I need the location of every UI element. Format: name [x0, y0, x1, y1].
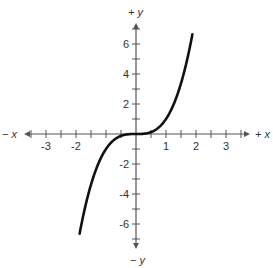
x-tick-label: -3 [41, 140, 51, 152]
y-axis-up-arrow-icon [133, 23, 139, 29]
y-tick-label: 2 [123, 98, 129, 110]
y-axis-down-arrow-icon [133, 243, 139, 249]
x-tick-label: 2 [193, 140, 199, 152]
y-axis-negative-label: − y [130, 254, 146, 266]
y-tick-label: -4 [119, 188, 129, 200]
y-tick-label: -6 [119, 218, 129, 230]
x-axis-right-arrow-icon [244, 131, 250, 137]
y-tick-label: -2 [119, 158, 129, 170]
x-tick-label: 3 [223, 140, 229, 152]
y-axis-positive-label: + y [128, 6, 144, 18]
cubic-function-graph: -3-2123642-2-4-6 + x − x + y − y [0, 0, 273, 268]
axes [24, 23, 250, 249]
x-tick-label: 1 [163, 140, 169, 152]
x-axis-positive-label: + x [255, 128, 270, 140]
y-tick-label: 4 [123, 68, 129, 80]
x-axis-negative-label: − x [2, 128, 17, 140]
y-tick-label: 6 [123, 38, 129, 50]
x-axis-left-arrow-icon [24, 131, 30, 137]
x-tick-label: -2 [71, 140, 81, 152]
